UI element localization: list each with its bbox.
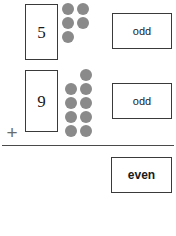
dot-icon (77, 3, 89, 15)
dot-icon (80, 125, 92, 137)
parity-label-1: odd (133, 26, 151, 37)
dot-row (65, 83, 95, 97)
dot-row (62, 31, 92, 45)
dot-icon (65, 97, 77, 109)
dot-row (65, 125, 95, 139)
addend-numeral-1: 5 (37, 24, 46, 41)
plus-operator-icon: + (4, 124, 20, 142)
dot-icon (80, 83, 92, 95)
parity-label-2: odd (133, 96, 151, 107)
dot-group-addend-1 (62, 3, 92, 45)
dot-icon (65, 125, 77, 137)
dot-icon (65, 111, 77, 123)
parity-label-box-1[interactable]: odd (112, 13, 172, 49)
dot-row (65, 97, 95, 111)
parity-label-box-2[interactable]: odd (112, 83, 172, 119)
dot-row (62, 3, 92, 17)
dot-icon (65, 83, 77, 95)
dot-row (62, 17, 92, 31)
dot-group-addend-2 (65, 69, 95, 139)
dot-icon (80, 97, 92, 109)
dot-icon (77, 17, 89, 29)
addend-numeral-2: 9 (37, 93, 46, 110)
dot-icon (62, 3, 74, 15)
parity-label-sum: even (128, 169, 155, 181)
parity-label-box-sum[interactable]: even (111, 157, 172, 193)
dot-icon (80, 69, 92, 81)
dot-icon (80, 111, 92, 123)
dot-icon (62, 31, 74, 43)
dot-row (65, 69, 95, 83)
parity-worksheet: 5 odd 9 (0, 0, 176, 236)
addend-numeral-box-2[interactable]: 9 (25, 70, 58, 132)
dot-placeholder (65, 69, 77, 81)
dot-row (65, 111, 95, 125)
addend-numeral-box-1[interactable]: 5 (25, 4, 58, 60)
sum-rule-divider (2, 145, 174, 146)
dot-icon (62, 17, 74, 29)
